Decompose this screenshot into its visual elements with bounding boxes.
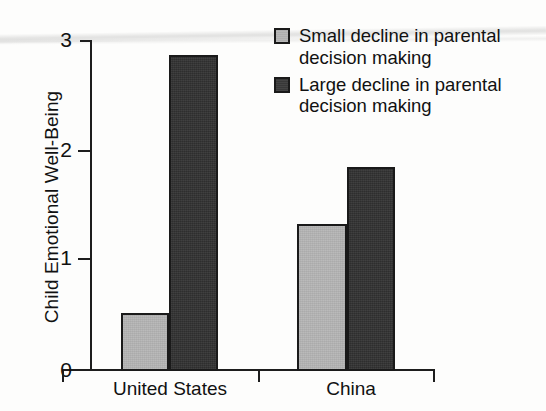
legend-label-small-decline-line2: decision making xyxy=(299,47,501,69)
legend-label-small-decline: Small decline in parental decision makin… xyxy=(299,25,501,69)
y-tick-2 xyxy=(78,150,90,152)
y-tick-1 xyxy=(78,258,90,260)
x-tick-group-separator xyxy=(258,371,260,382)
legend-label-large-decline-line2: decision making xyxy=(299,95,502,117)
legend-label-small-decline-line1: Small decline in parental xyxy=(299,25,501,47)
x-tick-right-end xyxy=(433,371,435,382)
legend-swatch-large-decline-icon xyxy=(274,77,290,93)
legend-label-large-decline: Large decline in parental decision makin… xyxy=(299,74,502,118)
bar-china-small-decline xyxy=(297,224,347,371)
bar-united-states-large-decline xyxy=(169,55,218,371)
legend-item-large-decline: Large decline in parental decision makin… xyxy=(274,74,546,118)
legend-item-small-decline: Small decline in parental decision makin… xyxy=(274,25,546,69)
bar-chart-figure: 3 2 1 0 Child Emotional Well-Being Unite… xyxy=(0,0,546,411)
y-tick-3 xyxy=(80,40,90,42)
legend-label-large-decline-line1: Large decline in parental xyxy=(299,74,502,96)
bar-china-large-decline xyxy=(347,167,395,371)
x-tick-left-end xyxy=(62,371,64,382)
x-category-label-china: China xyxy=(296,378,406,400)
x-category-label-united-states: United States xyxy=(95,378,245,400)
bar-united-states-small-decline xyxy=(121,313,169,371)
legend-swatch-small-decline-icon xyxy=(274,28,290,44)
y-axis-line xyxy=(90,40,92,371)
y-tick-0 xyxy=(78,369,90,371)
legend: Small decline in parental decision makin… xyxy=(274,25,546,122)
y-axis-title: Child Emotional Well-Being xyxy=(41,47,63,367)
